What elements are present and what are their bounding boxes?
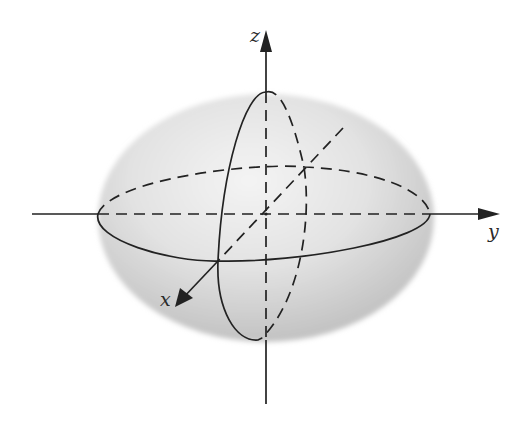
y-arrow-icon xyxy=(478,208,500,220)
x-axis-label: x xyxy=(160,288,171,310)
y-axis-label: y xyxy=(487,220,499,242)
ellipsoid-diagram: z y x xyxy=(0,0,532,428)
z-axis-label: z xyxy=(249,24,261,46)
origin-point xyxy=(264,212,267,215)
z-arrow-icon xyxy=(260,30,272,52)
